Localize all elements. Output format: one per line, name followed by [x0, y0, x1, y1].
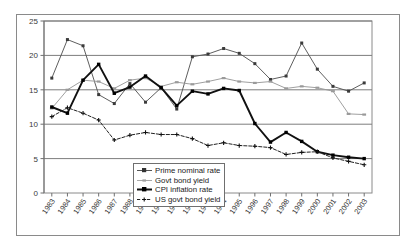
data-point	[113, 92, 116, 95]
data-point	[81, 78, 84, 81]
data-point	[191, 55, 194, 58]
x-tick-label: 1996	[243, 197, 260, 216]
data-point	[97, 80, 101, 82]
data-point	[175, 108, 178, 111]
legend-item-govt-bond-yield: Govt bond yield	[136, 176, 220, 186]
data-point	[66, 89, 70, 91]
data-point	[238, 52, 241, 55]
x-tick-label: 1983	[40, 197, 57, 216]
data-point	[300, 42, 303, 45]
data-point	[50, 105, 53, 108]
data-point	[128, 82, 131, 85]
data-point	[300, 85, 304, 87]
data-point	[316, 68, 319, 71]
data-point	[206, 92, 209, 95]
data-point	[50, 77, 53, 80]
legend-item-cpi-inflation-rate: CPI inflation rate	[136, 185, 220, 195]
data-point	[253, 62, 256, 65]
legend-label-us-govt-bond-yield: US govt bond yield	[153, 195, 220, 205]
data-point	[128, 79, 132, 81]
data-point	[269, 80, 273, 82]
data-point	[284, 131, 287, 134]
data-point	[191, 89, 194, 92]
data-point	[222, 47, 225, 50]
chart-legend: Prime nominal rate Govt bond yield CPI i…	[133, 163, 225, 207]
x-tick-label: 1984	[56, 197, 73, 216]
data-point	[237, 80, 241, 82]
data-point	[362, 113, 366, 115]
line-chart-canvas: 0510152025 19831984198519861987198819891…	[0, 0, 418, 250]
data-point	[253, 122, 256, 125]
data-point	[285, 75, 288, 78]
y-tick-label: 15	[29, 86, 38, 95]
x-tick-label: 1986	[87, 197, 104, 216]
legend-item-us-govt-bond-yield: US govt bond yield	[136, 195, 220, 205]
x-tick-label: 2001	[321, 197, 338, 216]
legend-key-us-govt-bond-yield	[136, 195, 153, 204]
y-tick-label: 5	[34, 155, 39, 164]
data-point	[363, 81, 366, 84]
data-point	[97, 63, 100, 66]
y-tick-label: 20	[29, 51, 38, 60]
x-tick-label: 2002	[337, 197, 354, 216]
legend-label-prime-nominal-rate: Prime nominal rate	[153, 166, 220, 176]
data-point	[253, 82, 257, 84]
data-point	[97, 93, 100, 96]
data-point	[238, 89, 241, 92]
data-point	[331, 85, 334, 88]
y-tick-label: 25	[29, 17, 38, 26]
data-point	[331, 90, 335, 92]
chart-figure: 0510152025 19831984198519861987198819891…	[0, 0, 418, 250]
x-tick-label: 1985	[71, 197, 88, 216]
data-point	[144, 101, 147, 104]
data-point	[128, 85, 131, 88]
x-tick-label: 2003	[352, 197, 369, 216]
y-tick-label: 10	[29, 120, 38, 129]
legend-key-cpi-inflation-rate	[136, 185, 153, 194]
data-point	[315, 87, 319, 89]
data-point	[175, 104, 178, 107]
data-point	[362, 157, 365, 160]
data-point	[144, 74, 147, 77]
data-point	[222, 77, 226, 79]
data-point	[82, 44, 85, 47]
legend-item-prime-nominal-rate: Prime nominal rate	[136, 166, 220, 176]
data-point	[175, 81, 179, 83]
data-point	[347, 113, 351, 115]
data-point	[66, 38, 69, 41]
legend-key-prime-nominal-rate	[136, 166, 153, 175]
x-tick-label: 1987	[102, 197, 119, 216]
data-point	[222, 87, 225, 90]
legend-label-govt-bond-yield: Govt bond yield	[153, 176, 209, 186]
data-point	[269, 140, 272, 143]
x-tick-label: 1999	[290, 197, 307, 216]
legend-label-cpi-inflation-rate: CPI inflation rate	[153, 185, 213, 195]
data-point	[206, 80, 210, 82]
legend-key-govt-bond-yield	[136, 176, 153, 185]
y-axis-tick-labels: 0510152025	[29, 17, 44, 198]
data-point	[190, 83, 194, 85]
data-point	[113, 102, 116, 105]
x-tick-label: 1998	[274, 197, 291, 216]
data-point	[347, 156, 350, 159]
x-tick-label: 1997	[259, 197, 276, 216]
data-point	[159, 86, 162, 89]
data-point	[66, 111, 69, 114]
data-point	[207, 53, 210, 56]
data-point	[284, 87, 288, 89]
data-point	[347, 90, 350, 93]
x-tick-label: 1995	[227, 197, 244, 216]
y-tick-label: 0	[34, 189, 39, 198]
x-tick-label: 2000	[306, 197, 323, 216]
data-point	[300, 140, 303, 143]
